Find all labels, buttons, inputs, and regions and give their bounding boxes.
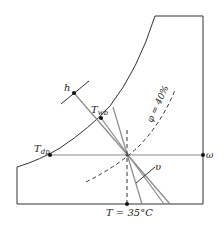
h-label: h [64,82,70,93]
phi-label: φ = 40% [145,84,171,124]
v-label: υ [155,161,161,172]
temperature-label: T = 35°C [106,207,153,218]
h-point [72,91,76,95]
chart-frame [17,16,203,204]
state-point [125,153,128,156]
temperature-point [125,202,129,206]
omega-point [201,153,205,157]
tdp-label: Tdp [34,143,50,156]
psychrometric-chart: h Twb Tdp φ = 40% ω υ T = 35°C [0,0,224,234]
omega-label: ω [206,150,214,160]
